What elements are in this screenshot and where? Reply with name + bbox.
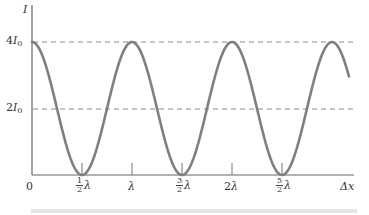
y-tick-4I0: 4I0 <box>6 34 22 48</box>
y-tick-2I0: 2I0 <box>6 101 22 115</box>
x-ticks <box>82 163 282 175</box>
x-tick-half-lambda: 12λ <box>76 177 91 194</box>
x-tick-five-halves-lambda: 52λ <box>276 177 291 194</box>
footer-divider <box>31 209 357 213</box>
x-tick-two-lambda: 2λ <box>224 180 238 193</box>
y-axis-label: I <box>23 3 27 16</box>
x-tick-three-halves-lambda: 32λ <box>176 177 191 194</box>
x-tick-lambda: λ <box>128 180 135 193</box>
x-tick-0: 0 <box>26 180 33 193</box>
x-axis-label: Δx <box>340 180 354 193</box>
